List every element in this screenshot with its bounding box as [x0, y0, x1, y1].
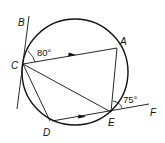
- segment-cd: [23, 64, 50, 121]
- angle-arc-80: [28, 51, 35, 62]
- geometry-diagram: B C A D E F 80° 75°: [0, 0, 165, 143]
- label-a: A: [119, 36, 127, 47]
- label-b: B: [18, 17, 25, 28]
- label-d: D: [43, 127, 50, 138]
- label-f: F: [150, 107, 157, 118]
- angle-label-80: 80°: [37, 47, 52, 58]
- segment-ce: [23, 64, 111, 112]
- angle-label-75: 75°: [123, 94, 138, 105]
- label-e: E: [108, 117, 115, 128]
- segment-ae: [111, 48, 117, 112]
- label-c: C: [11, 60, 19, 71]
